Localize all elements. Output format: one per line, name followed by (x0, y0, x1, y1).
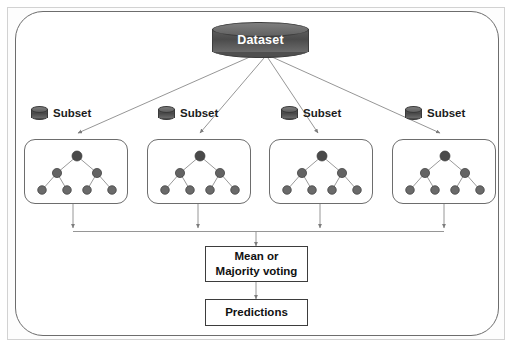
subset-label-1: Subset (53, 107, 91, 119)
decision-tree-graphic (393, 140, 497, 205)
dataset-cylinder: Dataset (212, 22, 309, 58)
subset-item-1: Subset (31, 103, 91, 123)
decision-tree-box-3 (269, 139, 373, 204)
page-scan-artifact (0, 0, 515, 7)
database-cylinder-icon (31, 106, 48, 121)
decision-tree-graphic (148, 140, 252, 205)
aggregation-box: Mean or Majority voting (205, 246, 308, 282)
subset-item-4: Subset (405, 103, 465, 123)
decision-tree-graphic (270, 140, 374, 205)
database-cylinder-icon (405, 106, 422, 121)
aggregation-label-line2: Majority voting (216, 264, 298, 279)
dataset-label: Dataset (212, 33, 309, 47)
database-cylinder-icon (281, 106, 298, 121)
decision-tree-box-4 (392, 139, 496, 204)
decision-tree-graphic (25, 140, 129, 205)
decision-tree-box-2 (147, 139, 251, 204)
subset-item-2: Subset (158, 103, 218, 123)
aggregation-label-line1: Mean or (234, 249, 278, 264)
ensemble-diagram-screenshot: Dataset Subset Subset Subset Subset (0, 0, 515, 350)
predictions-label: Predictions (225, 305, 288, 320)
predictions-box: Predictions (205, 299, 308, 326)
subset-label-3: Subset (303, 107, 341, 119)
subset-item-3: Subset (281, 103, 341, 123)
database-cylinder-icon (158, 106, 175, 121)
subset-label-4: Subset (427, 107, 465, 119)
decision-tree-box-1 (24, 139, 128, 204)
subset-label-2: Subset (180, 107, 218, 119)
